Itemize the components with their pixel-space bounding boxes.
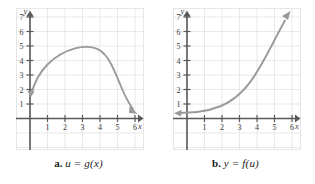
caption-a: a. u = g(x) — [0, 156, 157, 170]
y-axis-name-b: y — [180, 8, 185, 16]
x-axis-name-b: x — [294, 121, 299, 131]
plot-b-svg: 1 2 3 4 5 6 7 1 2 3 4 5 6 7 y x — [173, 8, 301, 150]
y-tick-label-a-1: 1 — [20, 100, 24, 109]
caption-b-equation: y = f(u) — [224, 157, 259, 169]
x-tick-label-b-2: 2 — [220, 123, 224, 132]
x-tick-label-b-1: 1 — [203, 123, 207, 132]
x-tick-label-a-1: 1 — [46, 123, 50, 132]
x-axis-name-a: x — [137, 121, 142, 131]
y-axis-name-a: y — [23, 8, 28, 16]
y-tick-label-a-4: 4 — [20, 57, 24, 66]
figure-two-graphs: 1 2 3 4 5 6 7 1 2 3 4 5 6 7 y x — [0, 0, 315, 184]
y-tick-label-b-5: 5 — [177, 42, 181, 51]
x-tick-label-b-6: 6 — [290, 123, 294, 132]
x-tick-label-a-6: 6 — [133, 123, 137, 132]
panel-b: 1 2 3 4 5 6 7 1 2 3 4 5 6 7 y x — [157, 0, 314, 184]
plot-a-svg: 1 2 3 4 5 6 7 1 2 3 4 5 6 7 y x — [16, 8, 144, 150]
x-tick-label-a-3: 3 — [81, 123, 85, 132]
x-tick-label-a-2: 2 — [63, 123, 67, 132]
y-tick-label-a-3: 3 — [20, 71, 24, 80]
plot-a: 1 2 3 4 5 6 7 1 2 3 4 5 6 7 y x — [16, 8, 144, 150]
y-tick-label-b-3: 3 — [177, 71, 181, 80]
y-tick-label-b-4: 4 — [177, 57, 181, 66]
x-tick-label-b-3: 3 — [238, 123, 242, 132]
y-tick-label-b-2: 2 — [177, 86, 181, 95]
x-tick-label-a-4: 4 — [98, 123, 102, 132]
plot-b: 1 2 3 4 5 6 7 1 2 3 4 5 6 7 y x — [173, 8, 301, 150]
panel-a: 1 2 3 4 5 6 7 1 2 3 4 5 6 7 y x — [0, 0, 157, 184]
y-tick-label-a-6: 6 — [20, 28, 24, 37]
y-tick-label-b-6: 6 — [177, 28, 181, 37]
caption-a-marker: a. — [54, 157, 62, 169]
caption-b-marker: b. — [212, 157, 221, 169]
y-tick-label-b-1: 1 — [177, 100, 181, 109]
x-tick-label-b-4: 4 — [255, 123, 259, 132]
caption-b: b. y = f(u) — [157, 156, 314, 170]
x-tick-label-a-5: 5 — [116, 123, 120, 132]
y-tick-label-a-5: 5 — [20, 42, 24, 51]
x-tick-label-b-5: 5 — [273, 123, 277, 132]
caption-a-equation: u = g(x) — [65, 157, 103, 169]
y-tick-label-a-2: 2 — [20, 86, 24, 95]
